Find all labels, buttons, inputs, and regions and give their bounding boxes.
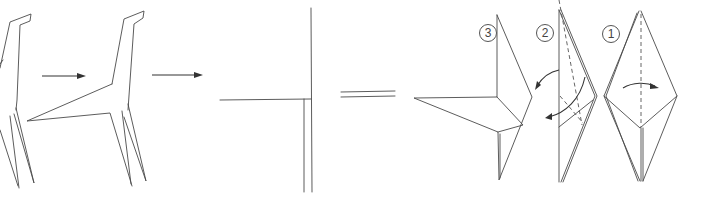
step-number-2: 2 (536, 24, 554, 42)
process-arrow-2 (152, 72, 203, 78)
figure-step-3 (414, 15, 532, 180)
figure-bird-legs-a (0, 14, 34, 188)
figure-t-view (220, 8, 312, 192)
step-number-3: 3 (479, 24, 497, 42)
process-arrow-1 (42, 73, 86, 79)
step-number-1: 1 (602, 25, 620, 43)
equals-sign (341, 91, 395, 97)
figure-bird-legs-b (27, 11, 146, 186)
